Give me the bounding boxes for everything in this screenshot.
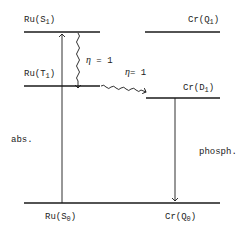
cr-q1-label: Cr(Q1): [188, 15, 219, 26]
isc-efficiency-label: η = 1: [86, 54, 113, 66]
energy-level-diagram: Ru(S1) Ru(T1) Cr(Q1) Cr(D1) Ru(S0) Cr(Q0…: [0, 0, 245, 232]
ru-s1-label: Ru(S1): [24, 15, 55, 26]
energy-transfer-wavy-arrow: [101, 85, 146, 92]
cr-q0-label: Cr(Q0): [165, 212, 196, 223]
absorption-label: abs.: [11, 135, 33, 145]
phosphorescence-label: phosph.: [199, 147, 237, 157]
cr-d1-label: Cr(D1): [183, 83, 214, 94]
ru-s0-label: Ru(S0): [45, 212, 76, 223]
ru-t1-label: Ru(T1): [24, 69, 55, 80]
energy-transfer-efficiency-label: η= 1: [125, 66, 146, 78]
isc-wavy-arrow: [77, 33, 80, 88]
